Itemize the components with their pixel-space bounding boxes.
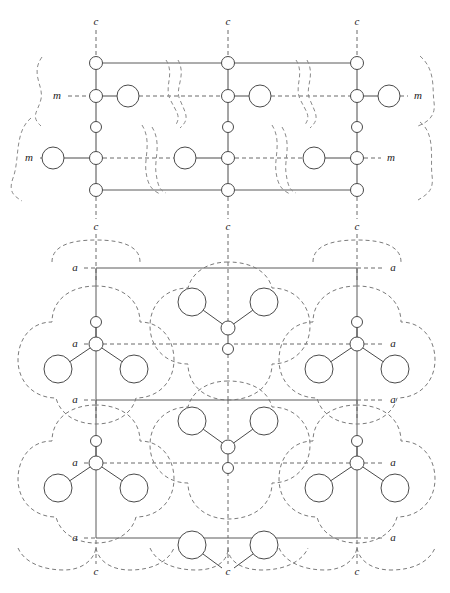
van-der-waals-envelope-partial: [357, 548, 435, 570]
small-atom-node: [222, 184, 235, 197]
small-atom-node: [91, 317, 102, 328]
small-atom-node: [350, 337, 364, 351]
small-atom-node: [351, 184, 364, 197]
unit-bond-arm: [203, 554, 222, 568]
a-axis-label: a: [72, 393, 78, 405]
vdw-envelopes: [18, 240, 435, 570]
top-panel-group: c c c c c c m m m m: [11, 15, 434, 262]
large-atom-node: [381, 474, 409, 502]
large-atom-node: [305, 355, 333, 383]
mirror-bracket-curve: [296, 60, 308, 126]
top-substituent-bonds: [64, 96, 378, 158]
van-der-waals-envelope-partial: [18, 548, 96, 570]
a-axis-label: a: [72, 531, 78, 543]
small-atom-node: [90, 90, 103, 103]
large-atom-node: [249, 85, 271, 107]
large-atom-node: [42, 147, 64, 169]
small-atom-node: [221, 321, 235, 335]
large-atom-node: [178, 531, 206, 559]
small-atom-node: [223, 463, 234, 474]
small-atom-node: [222, 57, 235, 70]
a-axis-label: a: [72, 261, 78, 273]
large-atom-node: [44, 355, 72, 383]
c-axis-label: c: [94, 220, 99, 232]
mirror-bracket-curve: [282, 127, 296, 193]
mirror-bracket-curve: [307, 60, 316, 128]
top-backbone-atoms: [90, 57, 364, 197]
c-axis-label: c: [355, 565, 360, 577]
small-atom-node: [90, 57, 103, 70]
mirror-bracket-curve: [142, 125, 160, 194]
figure-root: c c c c c c m m m m: [0, 0, 450, 593]
unit-bond-arm: [234, 554, 253, 568]
small-atom-node: [351, 57, 364, 70]
m-mirror-label: m: [53, 89, 61, 101]
large-atom-node: [381, 355, 409, 383]
c-axis-label: c: [94, 565, 99, 577]
small-atom-node: [222, 152, 235, 165]
large-atom-node: [305, 474, 333, 502]
mirror-bracket-curve: [418, 122, 432, 200]
a-axis-label: a: [390, 531, 396, 543]
bottom-panel-labels: a a a a a a a a a a c c c: [72, 261, 396, 577]
large-atom-node: [117, 85, 139, 107]
c-axis-label: c: [226, 565, 231, 577]
large-atom-node: [120, 474, 148, 502]
c-axis-label: c: [226, 15, 231, 27]
small-atom-node: [351, 152, 364, 165]
large-atom-node: [44, 474, 72, 502]
small-atom-node: [223, 344, 234, 355]
small-atom-node: [352, 436, 363, 447]
large-atom-node: [378, 85, 400, 107]
small-atom-node: [90, 152, 103, 165]
bottom-panel-group: a a a a a a a a a a c c c: [18, 240, 435, 577]
m-mirror-label: m: [387, 151, 395, 163]
mirror-bracket-curve: [152, 127, 166, 193]
small-atom-node: [223, 122, 234, 133]
mirror-bracket-curve: [166, 60, 178, 126]
small-atom-node: [352, 122, 363, 133]
large-atom-node: [250, 407, 278, 435]
small-atom-node: [222, 90, 235, 103]
large-atom-node: [250, 288, 278, 316]
a-axis-label: a: [72, 456, 78, 468]
a-axis-label: a: [390, 393, 396, 405]
large-atom-node: [178, 288, 206, 316]
mirror-bracket-curve: [35, 57, 42, 126]
packing-diagram-svg: c c c c c c m m m m: [0, 0, 450, 593]
van-der-waals-envelope-partial: [279, 548, 357, 570]
m-mirror-label: m: [414, 89, 422, 101]
a-axis-label: a: [390, 337, 396, 349]
large-atom-node: [174, 147, 196, 169]
small-atom-node: [89, 456, 103, 470]
small-atom-node: [91, 122, 102, 133]
mirror-bracket-curve: [272, 125, 290, 194]
large-atom-node: [120, 355, 148, 383]
c-axis-label: c: [94, 15, 99, 27]
small-atom-node: [352, 317, 363, 328]
m-mirror-label: m: [25, 151, 33, 163]
small-atom-node: [351, 90, 364, 103]
large-atom-node: [178, 407, 206, 435]
mirror-bracket-curve: [178, 60, 186, 128]
small-atom-node: [221, 440, 235, 454]
small-atom-node: [91, 436, 102, 447]
small-atom-node: [89, 337, 103, 351]
a-axis-label: a: [390, 261, 396, 273]
van-der-waals-envelope-partial: [96, 548, 174, 570]
c-axis-label: c: [355, 220, 360, 232]
molecular-units: [44, 288, 409, 568]
small-atom-node: [90, 184, 103, 197]
a-axis-label: a: [390, 456, 396, 468]
small-atom-node: [350, 456, 364, 470]
large-atom-node: [250, 531, 278, 559]
large-atom-node: [303, 147, 325, 169]
a-axis-label: a: [72, 337, 78, 349]
c-axis-label: c: [355, 15, 360, 27]
c-axis-label: c: [226, 220, 231, 232]
